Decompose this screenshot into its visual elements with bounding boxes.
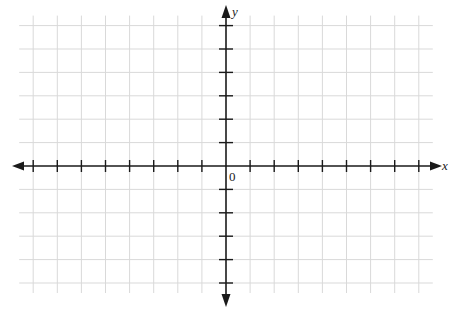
y-axis-label: y (230, 4, 238, 19)
x-axis-right-arrow-icon (430, 162, 442, 171)
axes (12, 5, 442, 307)
origin-label: 0 (229, 169, 236, 184)
x-axis-left-arrow-icon (12, 162, 24, 171)
coordinate-plane: x y 0 (0, 0, 456, 317)
y-axis-down-arrow-icon (222, 294, 231, 307)
y-axis-up-arrow-icon (222, 5, 231, 18)
x-axis-label: x (441, 158, 448, 173)
